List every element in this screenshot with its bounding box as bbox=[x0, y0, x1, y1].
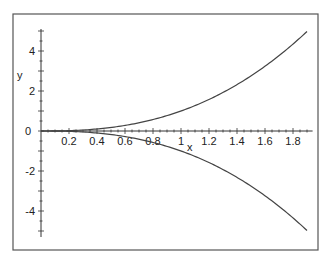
y-tick-label: -2 bbox=[25, 165, 35, 177]
x-axis-label: x bbox=[187, 141, 193, 153]
x-tick-label: 0.2 bbox=[61, 135, 76, 147]
x-tick-label: 1 bbox=[178, 135, 184, 147]
y-tick-label: 0 bbox=[25, 125, 31, 137]
x-tick-label: 1.2 bbox=[201, 135, 216, 147]
y-tick-label: -4 bbox=[25, 205, 35, 217]
y-tick-label: 2 bbox=[29, 85, 35, 97]
x-tick-label: 1.8 bbox=[285, 135, 300, 147]
curve-upper bbox=[41, 31, 307, 131]
y-tick-label: 4 bbox=[29, 45, 35, 57]
plot-area: 0.20.40.60.811.21.41.61.8-4-2024 x y bbox=[0, 0, 330, 263]
x-tick-label: 1.6 bbox=[257, 135, 272, 147]
x-tick-label: 0.4 bbox=[89, 135, 104, 147]
x-tick-label: 1.4 bbox=[229, 135, 244, 147]
y-axis-label: y bbox=[17, 69, 23, 81]
axes: 0.20.40.60.811.21.41.61.8-4-2024 bbox=[25, 29, 313, 237]
